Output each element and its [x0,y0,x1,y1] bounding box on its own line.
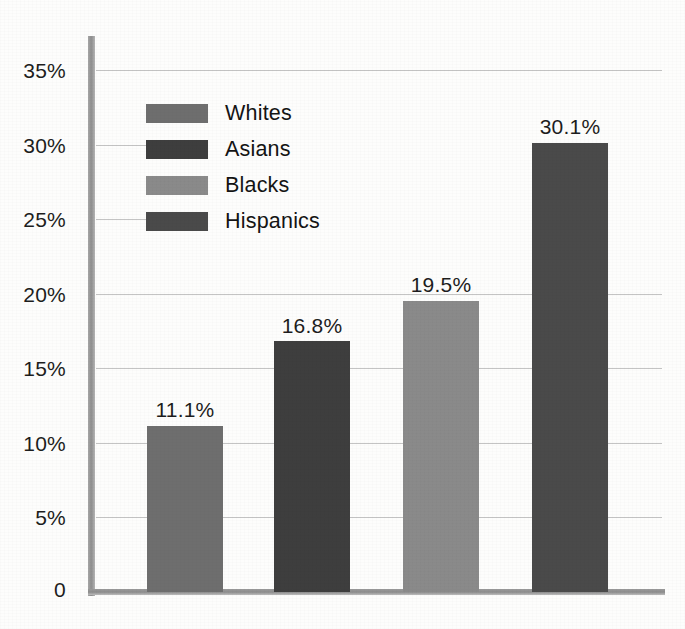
legend-item-hispanics[interactable]: Hispanics [146,203,320,239]
bar-whites[interactable] [147,426,223,592]
legend-label-hispanics: Hispanics [225,209,320,234]
legend-swatch-whites [146,104,208,123]
legend-item-blacks[interactable]: Blacks [146,167,320,203]
legend-swatch-hispanics [146,212,208,231]
bar-asians[interactable] [274,341,350,592]
legend-item-whites[interactable]: Whites [146,95,320,131]
chart-page: 35% 30% 25% 20% 15% 10% 5% 0 11.1% 16.8%… [0,0,685,629]
legend-swatch-asians [146,140,208,159]
legend-item-asians[interactable]: Asians [146,131,320,167]
legend-label-blacks: Blacks [225,173,290,198]
bar-blacks[interactable] [403,301,479,592]
y-tick-label-30: 30% [23,134,66,158]
legend-swatch-blacks [146,176,208,195]
y-tick-label-35: 35% [23,59,66,83]
y-tick-label-10: 10% [23,432,66,456]
bar-value-blacks: 19.5% [403,273,479,297]
legend-label-asians: Asians [225,137,291,162]
y-tick-label-0: 0 [54,578,66,602]
y-tick-label-15: 15% [23,357,66,381]
y-axis-line [88,36,95,596]
legend-label-whites: Whites [225,101,292,126]
y-tick-label-5: 5% [35,506,66,530]
y-tick-label-20: 20% [23,283,66,307]
legend: Whites Asians Blacks Hispanics [146,95,320,239]
bar-hispanics[interactable] [532,143,608,592]
bar-value-whites: 11.1% [147,398,223,422]
bar-value-asians: 16.8% [274,314,350,338]
y-tick-label-25: 25% [23,208,66,232]
bar-chart: 35% 30% 25% 20% 15% 10% 5% 0 11.1% 16.8%… [0,0,685,629]
gridline-35 [96,70,662,71]
bar-value-hispanics: 30.1% [532,115,608,139]
